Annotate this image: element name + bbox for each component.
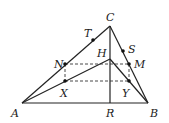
label-M: M — [133, 58, 146, 71]
label-C: C — [106, 11, 115, 24]
geometry-diagram: C T S H N M X Y A R B — [0, 0, 169, 123]
label-T: T — [84, 27, 93, 40]
label-R: R — [105, 107, 114, 120]
label-X: X — [59, 87, 69, 100]
point-T — [91, 38, 95, 42]
label-S: S — [128, 43, 136, 56]
point-N — [63, 62, 67, 66]
label-H: H — [96, 47, 107, 60]
point-Y — [127, 79, 131, 83]
label-B: B — [149, 107, 158, 120]
label-N: N — [53, 58, 64, 71]
point-M — [127, 62, 131, 66]
label-A: A — [10, 107, 19, 120]
label-Y: Y — [122, 87, 131, 100]
point-X — [63, 79, 67, 83]
point-S — [121, 49, 125, 53]
